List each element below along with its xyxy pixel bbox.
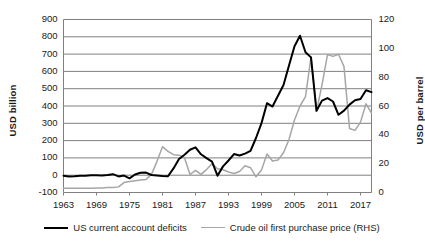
y-axis-right-tick-label: 40 (379, 128, 413, 139)
y-axis-right-tick-label: 120 (379, 13, 413, 24)
y-axis-right-tick-label: 0 (379, 186, 413, 197)
y-axis-left-tick-label: 900 (24, 13, 58, 24)
y-axis-left-tick-label: 300 (24, 117, 58, 128)
series-us-current-account-deficits (64, 36, 372, 179)
y-axis-right-title: USD per barrel (414, 66, 425, 156)
gridlines (64, 20, 372, 193)
y-axis-left-tick-label: 800 (24, 30, 58, 41)
y-axis-left-tick-label: 100 (24, 151, 58, 162)
legend-line-black-icon (44, 227, 68, 229)
x-axis-tick-label: 2017 (341, 199, 381, 210)
y-axis-left-tick-label: 500 (24, 82, 58, 93)
legend-item-crude-oil-first-purchase-price: Crude oil first purchase price (RHS) (201, 222, 380, 233)
y-axis-left-tick-label: 400 (24, 100, 58, 111)
y-axis-left-tick-label: 0 (24, 169, 58, 180)
y-axis-left-tick-label: 700 (24, 48, 58, 59)
legend-label-1: Crude oil first purchase price (RHS) (230, 222, 380, 233)
y-axis-right-tick-label: 100 (379, 42, 413, 53)
legend-item-us-current-account-deficits: US current account deficits (44, 222, 187, 233)
y-axis-left-title: USD billion (7, 76, 18, 146)
chart-legend: US current account deficits Crude oil fi… (0, 222, 424, 233)
legend-label-0: US current account deficits (73, 222, 187, 233)
y-axis-right-tick-label: 20 (379, 157, 413, 168)
series-crude-oil-price (64, 54, 372, 188)
y-axis-left-tick-label: 600 (24, 65, 58, 76)
y-axis-left-tick-label: -100 (24, 186, 58, 197)
y-axis-right-tick-label: 60 (379, 100, 413, 111)
y-axis-right-tick-label: 80 (379, 71, 413, 82)
y-axis-left-tick-label: 200 (24, 134, 58, 145)
legend-line-gray-icon (201, 227, 225, 228)
